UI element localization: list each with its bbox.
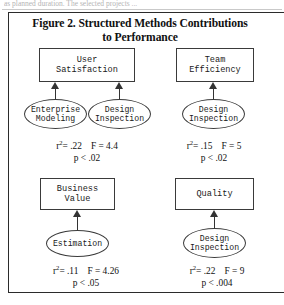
r-value-3: = .11: [59, 266, 78, 276]
figure-title: Figure 2. Structured Methods Contributio…: [14, 17, 266, 44]
outcome-box-business-value: Business Value: [40, 178, 115, 210]
method-ellipse-enterprise-modeling: Enterprise Modeling: [24, 99, 87, 129]
arrow-design-inspection-to-user-satisfaction: [115, 82, 124, 100]
outcome-box-team-efficiency: Team Efficiency: [176, 48, 254, 82]
page-running-text: as planned duration. The selected projec…: [4, 0, 280, 8]
f-value-3: F = 4.26: [87, 266, 119, 276]
r-value-4: = .22: [196, 266, 215, 276]
method-ellipse-estimation: Estimation: [46, 230, 109, 257]
f-value-1: F = 4.4: [91, 141, 118, 151]
arrow-enterprise-modeling-to-user-satisfaction: [51, 82, 60, 100]
page-top-rule: [2, 9, 282, 10]
f-value-4: F = 9: [224, 266, 244, 276]
stats-business-value: r2= .11F = 4.26 p < .05: [18, 262, 154, 289]
method-ellipse-design-inspection-3: Design Inspection: [183, 228, 246, 258]
stats-quality: r2= .22F = 9 p < .004: [150, 262, 284, 289]
p-value-1: p < .02: [22, 153, 152, 165]
p-value-2: p < .02: [150, 153, 278, 165]
r-value-2: = .15: [193, 141, 212, 151]
p-value-4: p < .004: [150, 278, 284, 290]
stats-user-satisfaction: r2= .22F = 4.4 p < .02: [22, 137, 152, 164]
outcome-box-user-satisfaction: User Satisfaction: [39, 48, 135, 82]
arrow-estimation-to-business-value: [73, 210, 82, 231]
arrow-design-inspection-to-team-efficiency: [209, 82, 218, 100]
figure-title-line-1: Figure 2. Structured Methods Contributio…: [32, 17, 247, 30]
method-ellipse-design-inspection-1: Design Inspection: [88, 99, 151, 129]
method-ellipse-design-inspection-2: Design Inspection: [182, 99, 245, 129]
r-value-1: = .22: [63, 141, 82, 151]
stats-team-efficiency: r2= .15F = 5 p < .02: [150, 137, 278, 164]
f-value-2: F = 5: [221, 141, 241, 151]
figure-title-line-2: to Performance: [102, 31, 178, 44]
p-value-3: p < .05: [18, 278, 154, 290]
figure-page: as planned duration. The selected projec…: [0, 0, 284, 305]
outcome-box-quality: Quality: [175, 178, 254, 210]
